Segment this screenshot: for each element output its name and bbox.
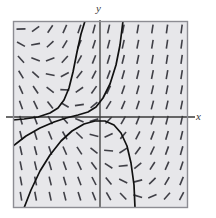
slope-field-plot <box>0 0 216 218</box>
y-axis-label: y <box>96 3 101 14</box>
slope-mark <box>181 25 182 34</box>
slope-mark <box>119 165 128 166</box>
x-axis-label: x <box>196 111 201 122</box>
slope-mark <box>104 150 113 151</box>
slope-field-figure: y x <box>0 0 216 218</box>
